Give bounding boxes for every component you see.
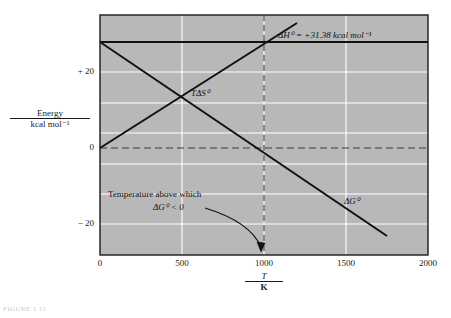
y-axis-title: Energy kcal mol⁻¹ (10, 108, 90, 130)
series-label-delta-h: ΔH⁰ = +31.38 kcal mol⁻¹ (278, 30, 371, 40)
series-label-t-delta-s: TΔS⁰ (191, 88, 210, 98)
x-axis-title: T K (245, 271, 283, 293)
y-axis-title-denominator: kcal mol⁻¹ (10, 118, 90, 129)
x-axis-title-numerator: T (245, 271, 283, 281)
x-axis-title-denominator: K (245, 281, 283, 292)
x-tick-500: 500 (167, 258, 197, 268)
y-tick-plus20: + 20 (49, 66, 94, 76)
crossover-annotation-line1: Temperature above which (108, 188, 201, 201)
x-tick-1000: 1000 (249, 258, 279, 268)
thermodynamics-line-chart (0, 0, 451, 318)
figure-caption: FIGURE 1 11 (3, 305, 46, 313)
x-tick-2000: 2000 (413, 258, 443, 268)
y-tick-zero: 0 (49, 142, 94, 152)
series-label-delta-g: ΔG⁰ (344, 196, 360, 206)
y-axis-title-numerator: Energy (10, 108, 90, 118)
figure-container: + 20 0 − 20 0 500 1000 1500 2000 Energy … (0, 0, 451, 318)
x-tick-1500: 1500 (331, 258, 361, 268)
crossover-annotation-line2: ΔG⁰ < 0 (153, 201, 184, 214)
x-tick-0: 0 (85, 258, 115, 268)
y-tick-minus20: − 20 (49, 218, 94, 228)
